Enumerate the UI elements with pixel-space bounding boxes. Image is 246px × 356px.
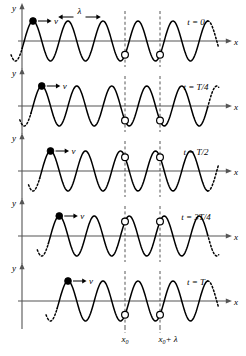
x-axis-arrow <box>226 103 232 108</box>
wave-tail-right <box>208 86 219 108</box>
x-axis-label: x <box>233 37 238 47</box>
wave-tail-right <box>208 234 219 256</box>
velocity-arrow-head <box>73 214 77 219</box>
marker-dot-open-x0 <box>122 218 129 225</box>
wavelength-arrow-left <box>58 15 62 20</box>
x-axis-label: x <box>233 167 238 177</box>
particle-dot-filled <box>30 18 37 25</box>
time-label-1: t = T/4 <box>183 82 209 92</box>
particle-dot-filled <box>65 278 72 285</box>
y-axis-label: y <box>11 68 16 78</box>
wave-panel-1: yxvt = T/4 <box>11 68 238 134</box>
particle-dot-filled <box>38 83 45 90</box>
velocity-arrow-head <box>56 84 60 89</box>
x-axis-arrow <box>226 168 232 173</box>
wave-panel-4: yxvt = T <box>11 263 238 329</box>
y-axis-arrow <box>19 263 24 269</box>
wavelength-annotation: λ <box>58 6 101 20</box>
wave-tail-left <box>20 113 31 126</box>
wave-panel-2: yxvt = T/2 <box>11 133 238 199</box>
y-axis-label: y <box>11 3 16 13</box>
marker-dot-open-x0 <box>122 117 129 124</box>
wave-figure: yxvt = 0yxvt = T/4yxvt = T/2yxvt = 3T/4y… <box>0 0 246 356</box>
x-axis-label: x <box>233 102 238 112</box>
x-axis-label: x <box>233 232 238 242</box>
marker-dot-open-x0 <box>122 51 129 58</box>
time-label-0: t = 0 <box>187 17 205 27</box>
marker-dot-open-x0-plus-lambda <box>157 218 164 225</box>
y-axis-label: y <box>11 198 16 208</box>
velocity-arrow-head <box>47 19 51 24</box>
x-axis-arrow <box>226 233 232 238</box>
x-position-labels: x0x0+ λ <box>121 327 178 345</box>
wave-tail-left <box>37 243 48 256</box>
wavelength-arrow-right <box>96 15 100 20</box>
y-axis-arrow <box>19 68 24 74</box>
x-axis-arrow <box>226 38 232 43</box>
velocity-label: v <box>89 276 93 286</box>
wave-tail-left <box>29 178 40 191</box>
x0-plus-lambda-label: x0+ λ <box>157 334 177 345</box>
time-label-2: t = T/2 <box>183 147 209 157</box>
wave-tail-right <box>208 21 219 48</box>
marker-dot-open-x0-plus-lambda <box>157 51 164 58</box>
y-axis-arrow <box>19 133 24 139</box>
time-label-3: t = 3T/4 <box>181 212 211 222</box>
velocity-arrow-head <box>65 149 69 154</box>
velocity-label: v <box>72 146 76 156</box>
marker-dot-open-x0-plus-lambda <box>157 154 164 161</box>
velocity-label: v <box>63 81 67 91</box>
wave-tail-right <box>208 281 219 308</box>
particle-dot-filled <box>47 148 54 155</box>
velocity-label: v <box>80 211 84 221</box>
marker-dot-open-x0-plus-lambda <box>157 117 164 124</box>
wave-tail-left <box>11 48 22 61</box>
velocity-arrow-head <box>82 279 86 284</box>
time-label-4: t = T <box>187 277 206 287</box>
wave-tail-left <box>46 308 57 321</box>
y-axis-arrow <box>19 198 24 204</box>
wavelength-label: λ <box>77 6 82 16</box>
y-axis-label: y <box>11 263 16 273</box>
marker-dot-open-x0 <box>122 311 129 318</box>
marker-dot-open-x0 <box>122 154 129 161</box>
wave-panel-3: yxvt = 3T/4 <box>11 198 238 264</box>
x-axis-arrow <box>226 298 232 303</box>
x0-label: x0 <box>121 334 129 345</box>
y-axis-arrow <box>19 3 24 9</box>
marker-dot-open-x0-plus-lambda <box>157 311 164 318</box>
particle-dot-filled <box>56 213 63 220</box>
wave-panel-0: yxvt = 0 <box>11 3 238 69</box>
wave-tail-right <box>208 164 219 191</box>
velocity-label: v <box>54 16 58 26</box>
y-axis-label: y <box>11 133 16 143</box>
x-axis-label: x <box>233 297 238 307</box>
